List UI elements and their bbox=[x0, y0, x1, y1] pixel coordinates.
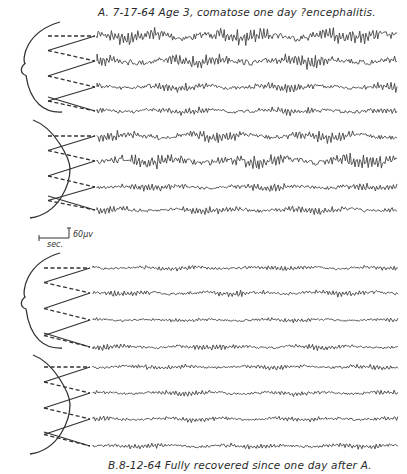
eeg-trace bbox=[97, 27, 397, 45]
eeg-trace bbox=[93, 344, 398, 351]
eeg-trace bbox=[97, 82, 397, 92]
eeg-trace bbox=[97, 107, 397, 116]
eeg-trace bbox=[93, 443, 398, 449]
eeg-trace bbox=[93, 318, 398, 323]
eeg-trace bbox=[97, 206, 397, 215]
eeg-trace bbox=[97, 54, 397, 70]
eeg-trace bbox=[97, 153, 397, 169]
eeg-trace bbox=[97, 130, 397, 143]
eeg-traces bbox=[93, 27, 398, 449]
eeg-trace bbox=[93, 390, 398, 397]
eeg-trace bbox=[93, 416, 398, 423]
eeg-trace bbox=[93, 265, 398, 271]
eeg-trace bbox=[93, 364, 398, 370]
eeg-trace bbox=[97, 183, 397, 191]
calibration-voltage-label: 60µv bbox=[73, 230, 93, 239]
calibration-time-label: sec. bbox=[47, 240, 63, 249]
eeg-trace bbox=[93, 290, 398, 297]
eeg-figure bbox=[0, 0, 407, 474]
